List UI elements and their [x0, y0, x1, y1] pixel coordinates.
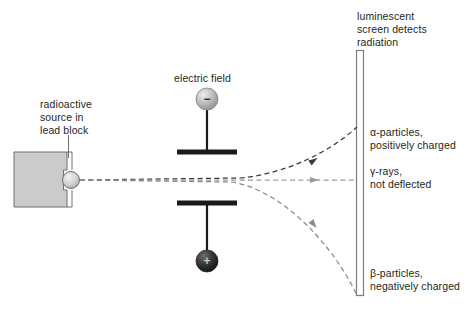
beta-particles-label: β-particles, negatively charged — [370, 267, 460, 293]
luminescent-screen — [357, 51, 364, 296]
gamma-ray-arrowhead — [310, 177, 319, 183]
positive-charge-sign: + — [196, 254, 218, 268]
capacitor-top-plate — [177, 150, 237, 155]
luminescent-screen-label: luminescent screen detects radiation — [357, 10, 427, 48]
lead-block — [14, 152, 67, 207]
radioactivity-deflection-diagram: − + radioactive source in lead block ele… — [0, 0, 470, 319]
electric-field-label: electric field — [174, 72, 231, 85]
gamma-rays-label: γ-rays, not deflected — [370, 165, 432, 191]
capacitor-bottom-plate — [177, 201, 237, 206]
radioactive-source-sphere — [63, 172, 80, 189]
alpha-particles-label: α-particles, positively charged — [370, 126, 456, 152]
negative-charge-sign: − — [196, 92, 218, 106]
beta-ray-path — [80, 180, 357, 295]
radioactive-source-label: radioactive source in lead block — [40, 98, 92, 136]
